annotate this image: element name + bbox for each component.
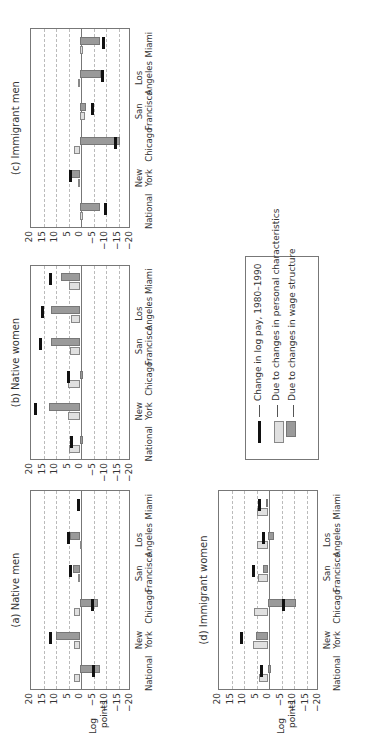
x-category-line1: New xyxy=(134,159,144,197)
bar-wage-structure xyxy=(61,273,80,281)
legend: Change in log pay, 1980–1990 Due to chan… xyxy=(245,256,319,460)
x-category-line1 xyxy=(134,192,144,230)
x-category-line2: York xyxy=(144,621,154,659)
bar-wage-structure xyxy=(263,565,268,573)
gridline xyxy=(119,29,120,227)
marker-change-log-pay xyxy=(34,403,37,415)
x-category-line2: Chicago xyxy=(144,126,154,164)
gridline xyxy=(119,491,120,689)
x-category-line2: Francisco xyxy=(144,92,154,130)
plot-area xyxy=(218,490,318,690)
marker-change-log-pay xyxy=(69,565,72,577)
bar-personal-characteristics xyxy=(78,79,81,87)
bar-wage-structure xyxy=(268,532,274,540)
bar-personal-characteristics xyxy=(70,347,80,355)
marker-change-log-pay xyxy=(282,599,285,611)
gridline xyxy=(56,266,57,459)
gridline xyxy=(257,491,258,689)
x-category-line1: Los xyxy=(322,521,332,559)
bar-wage-structure xyxy=(71,170,80,178)
gridline xyxy=(44,29,45,227)
gridline xyxy=(244,491,245,689)
bar-wage-structure xyxy=(70,532,81,540)
gridline xyxy=(119,266,120,459)
y-tick-label: 20 xyxy=(24,231,34,253)
bar-personal-characteristics xyxy=(80,46,83,54)
x-category-line1: Los xyxy=(134,295,144,333)
bar-personal-characteristics xyxy=(69,282,80,290)
y-tick-label: −20 xyxy=(124,231,134,253)
y-tick-label: −15 xyxy=(112,463,122,485)
gridline xyxy=(94,491,95,689)
marker-change-log-pay xyxy=(240,632,243,644)
gridline xyxy=(69,491,70,689)
bar-personal-characteristics xyxy=(80,541,82,549)
gridline xyxy=(69,29,70,227)
x-category-line2: Angeles xyxy=(144,295,154,333)
x-category-label: NewYork xyxy=(134,159,154,197)
y-tick-label: 20 xyxy=(212,693,222,715)
figure: (a) Native men20151050−5−10−15−20Logpoin… xyxy=(0,0,384,750)
gridline xyxy=(69,266,70,459)
x-category-line1: New xyxy=(322,621,332,659)
x-category-line2: Chicago xyxy=(144,360,154,398)
y-tick-label: 5 xyxy=(62,231,72,253)
gridline xyxy=(56,29,57,227)
bar-wage-structure xyxy=(256,632,269,640)
marker-change-log-pay xyxy=(260,665,263,677)
bar-personal-characteristics xyxy=(78,179,81,187)
marker-change-log-pay xyxy=(39,338,42,350)
x-category-label: NewYork xyxy=(134,392,154,430)
bar-personal-characteristics xyxy=(258,574,268,582)
y-tick-label: 0 xyxy=(74,693,84,715)
gridline xyxy=(282,491,283,689)
x-category-line1 xyxy=(322,654,332,692)
y-tick-label: −10 xyxy=(99,463,109,485)
x-category-label: Miami xyxy=(134,262,154,300)
x-category-line1 xyxy=(322,588,332,626)
gridline xyxy=(56,491,57,689)
bar-wage-structure xyxy=(266,499,269,507)
bar-wage-structure xyxy=(80,37,100,45)
x-category-line2: National xyxy=(332,654,342,692)
bar-wage-structure xyxy=(80,70,101,78)
x-category-label: Miami xyxy=(134,488,154,526)
bar-wage-structure xyxy=(73,565,80,573)
legend-item-wage: Due to changes in wage structure xyxy=(287,249,297,402)
panel-native-women: (b) Native women20151050−5−10−15−20 Nati… xyxy=(8,250,198,470)
y-tick-label: 10 xyxy=(49,463,59,485)
gridline xyxy=(232,491,233,689)
bar-personal-characteristics xyxy=(74,674,80,682)
marker-change-log-pay xyxy=(77,499,80,511)
x-category-label: SanFrancisco xyxy=(322,554,342,592)
y-tick-label: 15 xyxy=(37,231,47,253)
plot-area xyxy=(30,28,130,228)
gridline xyxy=(44,491,45,689)
bar-wage-structure xyxy=(268,665,271,673)
y-tick-label: 10 xyxy=(49,231,59,253)
y-tick-label: −20 xyxy=(312,693,322,715)
y-axis-label-line1: Log xyxy=(88,700,99,734)
legend-wage-swatch xyxy=(286,421,296,437)
zero-line xyxy=(81,491,82,689)
marker-change-log-pay xyxy=(41,306,44,318)
marker-change-log-pay xyxy=(258,499,261,511)
x-category-label: National xyxy=(134,425,154,463)
panel-title: (a) Native men xyxy=(10,490,21,690)
plot-area xyxy=(30,265,130,460)
y-tick-label: 0 xyxy=(262,693,272,715)
x-category-label: Chicago xyxy=(322,588,342,626)
legend-arrow-icon xyxy=(293,405,294,417)
legend-item-change: Change in log pay, 1980–1990 xyxy=(253,263,263,401)
gridline xyxy=(94,29,95,227)
x-category-label: LosAngeles xyxy=(322,521,342,559)
x-category-line1: San xyxy=(134,327,144,365)
legend-change-swatch xyxy=(258,421,261,443)
x-category-label: NewYork xyxy=(134,621,154,659)
x-category-line2: National xyxy=(144,192,154,230)
marker-change-log-pay xyxy=(67,532,70,544)
y-tick-label: 10 xyxy=(49,693,59,715)
y-tick-label: 0 xyxy=(74,463,84,485)
x-category-line1: San xyxy=(134,554,144,592)
panel-immigrant-women: (d) Immigrant women20151050−5−10−15−20Lo… xyxy=(196,470,384,730)
